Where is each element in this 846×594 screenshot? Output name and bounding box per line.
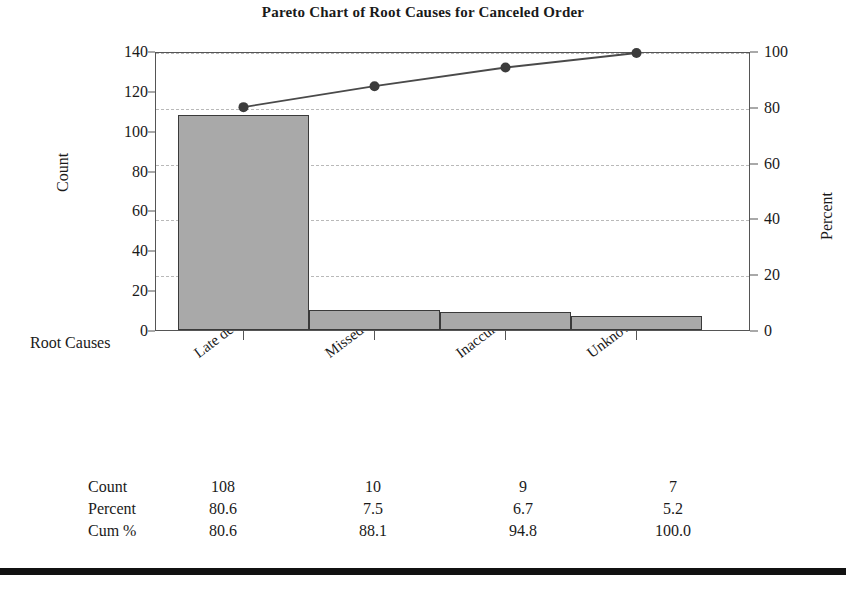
y-axis-tick-label: 80 [132,163,148,181]
y-axis-tick-label: 40 [132,242,148,260]
y-axis-tick-label: 0 [140,322,148,340]
cumulative-marker [239,102,249,112]
y2-axis-tick-mark [750,275,758,276]
table-cell: 88.1 [328,522,418,540]
y-axis-tick-label: 100 [124,123,148,141]
y2-axis-tick-mark [750,219,758,220]
y-axis-tick-mark [148,251,155,252]
y-axis-tick-label: 60 [132,202,148,220]
table-row: Cum %80.688.194.8100.0 [0,522,846,544]
table-cell: 6.7 [478,500,568,518]
pareto-chart-figure: Pareto Chart of Root Causes for Canceled… [0,0,846,594]
cumulative-line-path [244,53,637,107]
x-axis-tick-mark [374,331,375,340]
x-axis-tick-mark [243,331,244,340]
x-axis-title-root-causes: Root Causes [30,334,110,352]
table-cell: 80.6 [178,522,268,540]
y-axis-tick-label: 120 [124,83,148,101]
y2-axis-tick-label: 80 [764,99,780,117]
y2-axis-tick-label: 20 [764,266,780,284]
bottom-divider [0,568,846,575]
chart-title: Pareto Chart of Root Causes for Canceled… [0,4,846,21]
cumulative-marker [370,81,380,91]
y-axis-title-count: Count [54,153,72,192]
y2-axis-tick-mark [750,163,758,164]
table-cell: 108 [178,478,268,496]
y2-axis-tick-mark [750,331,758,332]
table-cell: 10 [328,478,418,496]
y-axis-tick-mark [148,131,155,132]
y-axis-tick-mark [148,291,155,292]
data-table: Count1081097Percent80.67.56.75.2Cum %80.… [0,478,846,544]
x-axis-tick-mark [505,331,506,340]
cumulative-percent-line [156,53,751,332]
table-cell: 94.8 [478,522,568,540]
y-axis-tick-label: 20 [132,282,148,300]
table-cell: 100.0 [628,522,718,540]
table-cell: 80.6 [178,500,268,518]
y-axis-tick-mark [148,211,155,212]
table-row: Percent80.67.56.75.2 [0,500,846,522]
y-axis-tick-labels: 020406080100120140 [96,52,148,331]
plot-area [155,52,750,331]
y-axis-tick-mark [148,52,155,53]
y2-axis-tick-mark [750,52,758,53]
table-cell: 5.2 [628,500,718,518]
y-axis-tick-mark [148,171,155,172]
table-row-label: Percent [88,500,136,518]
y-axis-tick-mark [148,91,155,92]
y2-axis-tick-label: 40 [764,210,780,228]
y2-axis-tick-label: 100 [764,43,788,61]
table-cell: 7.5 [328,500,418,518]
table-cell: 9 [478,478,568,496]
x-axis-tick-mark [636,331,637,340]
y2-axis-tick-labels: 020406080100 [764,52,824,331]
cumulative-marker [501,63,511,73]
cumulative-marker [632,48,642,58]
y-axis-tick-mark [148,331,155,332]
y-axis-tick-label: 140 [124,43,148,61]
table-cell: 7 [628,478,718,496]
table-row: Count1081097 [0,478,846,500]
table-row-label: Count [88,478,127,496]
y2-axis-tick-label: 60 [764,155,780,173]
y2-axis-tick-mark [750,107,758,108]
y2-axis-tick-label: 0 [764,322,772,340]
table-row-label: Cum % [88,522,136,540]
